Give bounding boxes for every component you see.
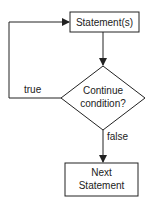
next-label-line1: Next	[91, 167, 112, 178]
next-label-line2: Statement	[79, 180, 125, 191]
statements-label: Statement(s)	[76, 17, 133, 28]
condition-label-line1: Continue	[83, 85, 123, 96]
condition-label-line2: condition?	[80, 98, 126, 109]
true-label: true	[24, 84, 42, 95]
statements-node: Statement(s)	[70, 12, 139, 32]
false-label: false	[107, 131, 129, 142]
flowchart: Statement(s) Continue condition? true fa…	[0, 0, 150, 204]
next-statement-node: Next Statement	[65, 163, 138, 196]
condition-node: Continue condition?	[61, 66, 145, 130]
